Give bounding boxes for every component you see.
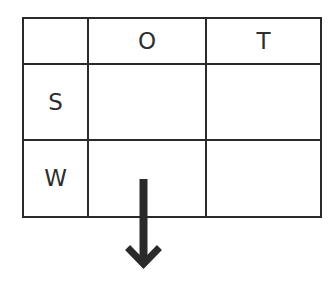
column-header-o: O xyxy=(89,19,205,63)
cell-w-t xyxy=(207,141,320,216)
corner-cell xyxy=(24,19,87,63)
row-header-s: S xyxy=(24,65,87,139)
column-header-t: T xyxy=(207,19,320,63)
cell-s-o xyxy=(89,65,205,139)
cell-s-t xyxy=(207,65,320,139)
arrow-down-icon xyxy=(120,176,168,272)
row-header-w: W xyxy=(24,141,87,216)
